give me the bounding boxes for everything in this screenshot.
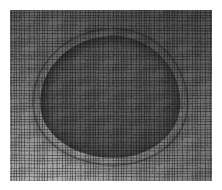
mesh-image-plate bbox=[10, 10, 212, 181]
image-vignette bbox=[10, 10, 212, 181]
screenshot-root bbox=[0, 0, 222, 190]
